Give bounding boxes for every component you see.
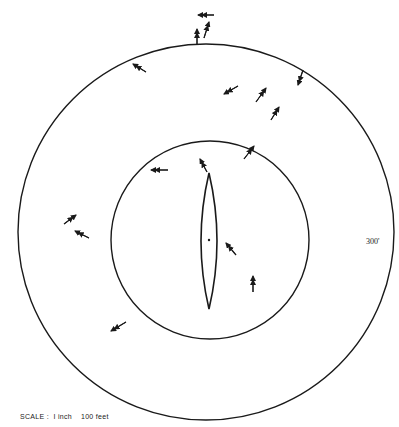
- wind-arrow-second-head-icon: [256, 91, 264, 102]
- wind-arrow-second-head-icon: [271, 110, 277, 120]
- wind-arrow-second-head-icon: [244, 149, 252, 159]
- wind-arrow-second-head-icon: [79, 233, 89, 238]
- wind-arrow-second-head-icon: [227, 86, 238, 92]
- wind-arrow-second-head-icon: [202, 163, 207, 172]
- wind-direction-diagram: [0, 0, 399, 427]
- wind-arrow-second-head-icon: [299, 70, 303, 81]
- outer-circle-300ft: [18, 44, 394, 420]
- wind-arrow-second-head-icon: [64, 217, 73, 224]
- center-dot: [208, 239, 210, 241]
- wind-arrow-second-head-icon: [136, 66, 146, 72]
- wind-arrow-second-head-icon: [229, 246, 236, 255]
- radius-label-300ft: 300': [366, 237, 379, 246]
- wind-arrow-second-head-icon: [204, 26, 208, 38]
- arrow-group: [64, 15, 303, 331]
- wind-arrow-second-head-icon: [114, 322, 126, 329]
- scale-label: SCALE : I inch 100 feet: [20, 413, 109, 420]
